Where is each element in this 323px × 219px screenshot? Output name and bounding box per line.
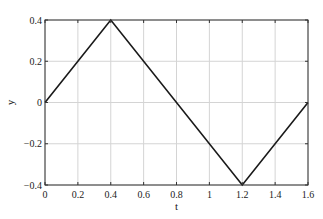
y-tick-label: −0.4 — [24, 180, 42, 191]
x-tick-label: 0 — [43, 189, 48, 200]
x-tick-label: 1.6 — [302, 189, 315, 200]
y-tick-label: −0.2 — [24, 138, 42, 149]
y-tick-label: 0.2 — [30, 56, 43, 67]
line-chart: 00.20.40.60.811.21.41.6 0.40.20−0.2−0.4 … — [0, 0, 323, 219]
x-tick-label: 1 — [207, 189, 212, 200]
x-tick-label: 1.4 — [269, 189, 282, 200]
x-tick-label: 0.4 — [105, 189, 118, 200]
x-tick-label: 0.8 — [170, 189, 183, 200]
x-axis-label: t — [175, 200, 178, 212]
x-axis-ticks: 00.20.40.60.811.21.41.6 — [43, 20, 315, 200]
y-axis-label: y — [4, 99, 16, 105]
x-tick-label: 0.2 — [72, 189, 85, 200]
y-tick-label: 0 — [37, 97, 42, 108]
x-tick-label: 1.2 — [236, 189, 249, 200]
y-tick-label: 0.4 — [30, 15, 43, 26]
x-tick-label: 0.6 — [137, 189, 150, 200]
